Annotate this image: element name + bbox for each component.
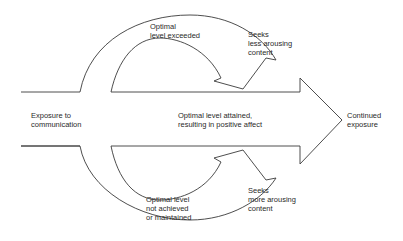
bottom-action-label: Seeks more arousing content bbox=[248, 186, 296, 213]
top-action-label: Seeks less arousing content bbox=[248, 30, 292, 57]
end-label: Continued exposure bbox=[347, 111, 381, 129]
start-label: Exposure to communication bbox=[31, 111, 81, 129]
top-loop-label: Optimal level exceeded bbox=[150, 22, 200, 40]
bottom-loop-label: Optimal level not achieved or maintained bbox=[146, 195, 191, 222]
center-label: Optimal level attained, resulting in pos… bbox=[178, 111, 262, 129]
